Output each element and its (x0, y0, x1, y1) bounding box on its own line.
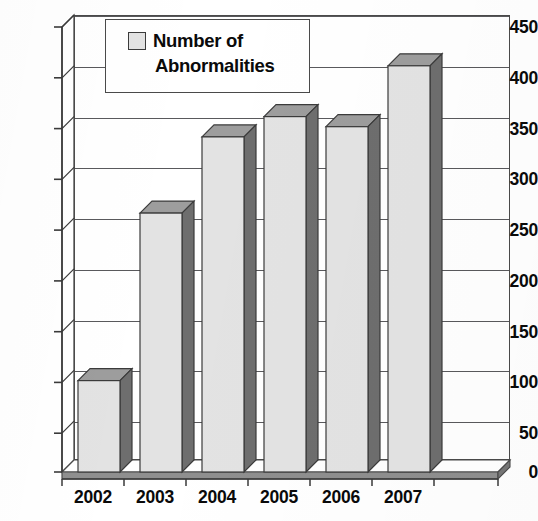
xtick-label-2004: 2004 (184, 487, 250, 508)
ytick-label-250: 250 (492, 220, 538, 241)
ytick-label-300: 300 (492, 169, 538, 190)
gridline-100 (75, 371, 509, 372)
gridline-50 (75, 422, 509, 423)
legend-entry-series-1: Number of (106, 27, 309, 55)
gridline-250 (75, 219, 509, 220)
series-color-swatch-icon (128, 32, 146, 50)
xtick-label-2003: 2003 (122, 487, 188, 508)
ytick-label-100: 100 (492, 372, 538, 393)
gridline-200 (75, 270, 509, 271)
legend-entry-series-1-wrap: Abnormalities (106, 55, 309, 85)
bar-chart-figure: 450 400 350 300 250 200 150 100 50 0 200… (0, 0, 538, 521)
gridline-350 (75, 118, 509, 119)
xtick-label-2005: 2005 (246, 487, 312, 508)
gridline-450 (75, 16, 509, 17)
legend-label-line-2: Abnormalities (155, 55, 274, 77)
xtick-label-2002: 2002 (60, 487, 126, 508)
gridline-150 (75, 321, 509, 322)
xtick-label-2007: 2007 (370, 487, 436, 508)
ytick-label-150: 150 (492, 321, 538, 342)
chart-legend: Number of Abnormalities (105, 19, 310, 93)
ytick-label-450: 450 (492, 17, 538, 38)
ytick-label-0: 0 (492, 462, 538, 483)
ytick-label-50: 50 (492, 423, 538, 444)
gridline-300 (75, 168, 509, 169)
ytick-label-400: 400 (492, 67, 538, 88)
ytick-label-200: 200 (492, 270, 538, 291)
xtick-label-2006: 2006 (308, 487, 374, 508)
legend-label-line-1: Number of (153, 30, 243, 52)
ytick-label-350: 350 (492, 118, 538, 139)
